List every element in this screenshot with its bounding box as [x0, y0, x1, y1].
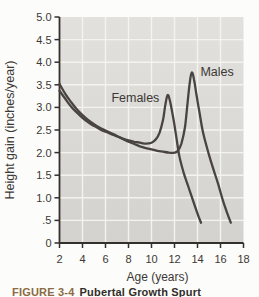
- y-tick-label: 1.5: [36, 169, 51, 181]
- y-tick-label: 3.0: [36, 101, 51, 113]
- x-tick-label: 8: [125, 253, 131, 265]
- x-tick-label: 10: [145, 253, 157, 265]
- y-tick-label: 3.5: [36, 79, 51, 91]
- x-axis-title: Age (years): [126, 270, 188, 284]
- females-series-label: Females: [111, 91, 159, 105]
- x-tick-label: 6: [102, 253, 108, 265]
- x-tick-label: 2: [56, 253, 62, 265]
- males-series-label: Males: [200, 65, 233, 79]
- x-tick-label: 4: [79, 253, 85, 265]
- x-tick-label: 16: [214, 253, 226, 265]
- y-tick-label: 2.0: [36, 147, 51, 159]
- y-tick-label: 1.0: [36, 192, 51, 204]
- figure-caption: FIGURE 3-4Pubertal Growth Spurt: [12, 286, 201, 297]
- y-tick-label: .5: [42, 214, 51, 226]
- x-tick-label: 12: [168, 253, 180, 265]
- y-tick-label: 0: [45, 237, 51, 249]
- growth-velocity-chart: 5.04.54.03.53.02.52.01.51.0.502468101214…: [0, 0, 259, 284]
- x-tick-label: 18: [237, 253, 249, 265]
- figure-number: FIGURE 3-4: [12, 286, 75, 297]
- y-tick-label: 2.5: [36, 124, 51, 136]
- y-axis-title: Height gain (inches/year): [3, 61, 17, 200]
- y-tick-label: 4.5: [36, 34, 51, 46]
- figure-title: Pubertal Growth Spurt: [80, 286, 202, 297]
- y-tick-label: 4.0: [36, 56, 51, 68]
- y-tick-label: 5.0: [36, 11, 51, 23]
- figure-pubertal-growth-spurt: 5.04.54.03.53.02.52.01.51.0.502468101214…: [0, 0, 259, 297]
- x-tick-label: 14: [191, 253, 203, 265]
